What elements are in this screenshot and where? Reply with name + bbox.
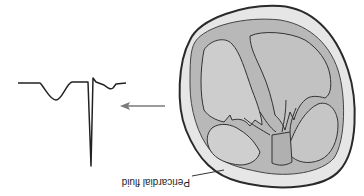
arrow-icon (120, 102, 165, 110)
ecg-trace (18, 78, 126, 166)
pericardial-fluid-label: Pericardial fluid (122, 177, 190, 188)
heart-ecg-diagram: Pericardial fluid (0, 0, 364, 196)
heart-outflow-tract (272, 132, 292, 165)
diagram-svg: Pericardial fluid (0, 0, 364, 196)
